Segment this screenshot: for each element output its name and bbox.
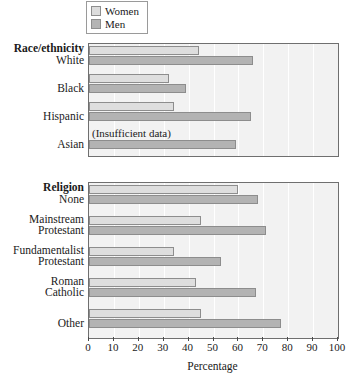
bar-group <box>89 44 338 72</box>
bar-group <box>89 307 338 338</box>
axis-tick-label: 40 <box>182 342 193 353</box>
bar-women <box>89 278 196 287</box>
bar-group: (Insufficient data) <box>89 128 338 156</box>
bar-women <box>89 185 238 194</box>
legend-label-women: Women <box>105 6 139 17</box>
category-label: Mainstream Protestant <box>0 214 84 237</box>
panel-title-religion: Religion <box>0 182 84 194</box>
bar-women <box>89 309 201 318</box>
axis-tick-label: 80 <box>282 342 293 353</box>
legend-item-women: Women <box>91 5 139 17</box>
bar-group <box>89 183 338 214</box>
chart-legend: Women Men <box>86 1 148 34</box>
bar-men <box>89 56 253 65</box>
axis-tick-label: 100 <box>329 342 346 353</box>
axis-tick-label: 70 <box>257 342 268 353</box>
axis-tick-label: 50 <box>207 342 218 353</box>
category-label: Fundamentalist Protestant <box>0 245 84 268</box>
bar-rows-religion <box>89 183 338 338</box>
axis-tick-label: 90 <box>307 342 318 353</box>
bar-men <box>89 112 251 121</box>
category-label: Hispanic <box>0 111 84 123</box>
axis-tick-label: 60 <box>232 342 243 353</box>
bar-men <box>89 257 221 266</box>
axis-tick-label: 0 <box>85 342 91 353</box>
category-label: Asian <box>0 139 84 151</box>
bar-group <box>89 245 338 276</box>
panel-race-ethnicity: (Insufficient data) <box>88 43 339 157</box>
panel-religion <box>88 182 339 339</box>
legend-swatch-women-icon <box>91 6 101 16</box>
category-label: Roman Catholic <box>0 276 84 299</box>
insufficient-data-note: (Insufficient data) <box>92 128 171 139</box>
bar-group <box>89 276 338 307</box>
bar-men <box>89 319 281 328</box>
panel-title-race-ethnicity: Race/ethnicity <box>0 43 84 55</box>
legend-swatch-men-icon <box>91 19 101 29</box>
bar-women <box>89 247 174 256</box>
bar-men <box>89 140 236 149</box>
bar-men <box>89 288 256 297</box>
bar-women <box>89 46 199 55</box>
bar-women <box>89 74 169 83</box>
bar-women <box>89 216 201 225</box>
x-axis-title: Percentage <box>88 360 337 372</box>
category-label: White <box>0 55 84 67</box>
bar-men <box>89 195 258 204</box>
category-label: None <box>0 194 84 206</box>
axis-tick-label: 10 <box>107 342 118 353</box>
bar-group <box>89 100 338 128</box>
bar-men <box>89 226 266 235</box>
category-label: Black <box>0 83 84 95</box>
bar-group <box>89 214 338 245</box>
legend-item-men: Men <box>91 18 139 30</box>
legend-label-men: Men <box>105 19 125 30</box>
bar-women <box>89 102 174 111</box>
axis-tick-label: 20 <box>132 342 143 353</box>
axis-tick-label: 30 <box>157 342 168 353</box>
bar-group <box>89 72 338 100</box>
category-label: Other <box>0 318 84 330</box>
x-axis: 0102030405060708090100 <box>88 337 337 338</box>
bar-rows-race: (Insufficient data) <box>89 44 338 156</box>
bar-men <box>89 84 186 93</box>
